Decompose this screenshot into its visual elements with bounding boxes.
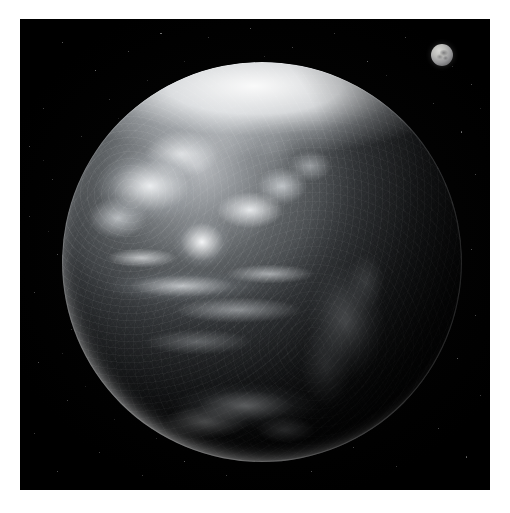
lunar-maria [431,44,453,66]
image-caption: Monochrome satellite photograph of the s… [0,16,1,17]
screenshot-root: Monochrome satellite photograph of the s… [0,0,510,513]
space-photograph [20,19,490,490]
earth [62,62,462,462]
moon [431,44,453,66]
bright-limb-crescent [61,61,463,463]
